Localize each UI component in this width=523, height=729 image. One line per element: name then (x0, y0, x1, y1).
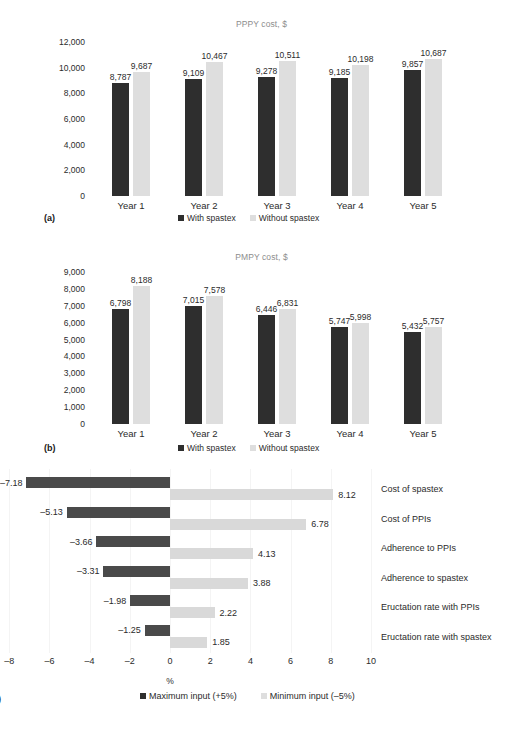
bar-value-label: 10,687 (421, 48, 447, 58)
tornado-bar-maximum-input (130, 595, 170, 606)
y-axis-tick-label: 1,000 (35, 402, 85, 412)
bar-value-label: 6,446 (256, 304, 277, 314)
y-axis-tick-label: 10,000 (35, 63, 85, 73)
chart-legend-c: Maximum input (+5%)Minimum input (–5%) (140, 691, 355, 701)
legend-swatch-icon (178, 445, 184, 451)
x-axis-tick-label: 2 (208, 656, 213, 666)
bar-value-label: 5,432 (402, 321, 423, 331)
legend-item: Without spastex (250, 213, 319, 223)
tornado-category-label: Cost of spastex (381, 484, 443, 494)
tornado-value-label-maximum-input: –3.31 (0, 566, 99, 576)
tornado-bar-maximum-input (67, 507, 170, 518)
x-axis-category-label: Year 5 (409, 428, 436, 439)
y-axis-tick-label: 7,000 (35, 301, 85, 311)
tornado-value-label-minimum-input: 3.88 (253, 578, 271, 588)
x-gridline (371, 469, 372, 653)
legend-label: With spastex (187, 213, 236, 223)
plot-area-c: –7.188.12Cost of spastex–5.136.78Cost of… (0, 465, 523, 665)
tornado-bar-maximum-input (26, 477, 170, 488)
tornado-category-label: Eructation rate with PPIs (381, 602, 480, 612)
tornado-value-label-maximum-input: –1.25 (0, 625, 141, 635)
bar-value-label: 9,109 (183, 68, 204, 78)
tornado-bar-minimum-input (170, 548, 253, 559)
bar-value-label: 10,511 (275, 50, 300, 60)
bar-with-spastex (331, 78, 348, 196)
tornado-category-label: Adherence to spastex (381, 573, 468, 583)
x-axis-tick-label: –6 (44, 656, 54, 666)
x-axis-tick-label: 0 (167, 656, 172, 666)
bar-without-spastex (206, 296, 223, 424)
bar-without-spastex (352, 65, 369, 196)
y-axis-tick-label: 2,000 (35, 165, 85, 175)
tornado-value-label-minimum-input: 2.22 (220, 608, 238, 618)
tornado-bar-minimum-input (170, 637, 207, 648)
bar-without-spastex (425, 59, 442, 196)
bar-without-spastex (133, 286, 150, 424)
bar-value-label: 7,015 (183, 295, 204, 305)
x-axis-tick-label: –8 (4, 656, 14, 666)
tornado-bar-minimum-input (170, 519, 306, 530)
chart-panel-a: PPPY cost, $ (a) 02,0004,0006,0008,00010… (0, 0, 523, 235)
tornado-category-label: Adherence to PPIs (381, 543, 456, 553)
x-axis-tick-label: 4 (248, 656, 253, 666)
bar-with-spastex (112, 83, 129, 196)
bar-value-label: 9,185 (329, 67, 350, 77)
y-axis-tick-label: 2,000 (35, 385, 85, 395)
legend-item: Maximum input (+5%) (140, 691, 237, 701)
bar-with-spastex (404, 70, 421, 196)
y-axis-tick-label: 6,000 (35, 114, 85, 124)
bar-value-label: 6,831 (277, 298, 298, 308)
tornado-bar-minimum-input (170, 489, 333, 500)
bar-value-label: 6,798 (110, 298, 131, 308)
legend-item: With spastex (178, 443, 236, 453)
x-axis-category-label: Year 1 (117, 200, 144, 211)
legend-label: Maximum input (+5%) (149, 691, 237, 701)
tornado-bar-maximum-input (145, 625, 170, 636)
tornado-value-label-minimum-input: 8.12 (338, 490, 356, 500)
y-axis-tick-label: 6,000 (35, 318, 85, 328)
bar-value-label: 7,578 (204, 285, 225, 295)
tornado-value-label-maximum-input: –7.18 (0, 478, 22, 488)
bar-value-label: 9,857 (402, 59, 423, 69)
legend-item: Minimum input (–5%) (261, 691, 355, 701)
legend-swatch-icon (250, 215, 256, 221)
y-axis-tick-label: 4,000 (35, 351, 85, 361)
bar-without-spastex (133, 72, 150, 196)
legend-label: Without spastex (259, 213, 319, 223)
panel-letter-b: (b) (44, 443, 56, 453)
bar-with-spastex (112, 309, 129, 424)
panel-letter-a: (a) (44, 213, 55, 223)
bar-with-spastex (258, 315, 275, 424)
x-axis-category-label: Year 3 (263, 428, 290, 439)
legend-label: Without spastex (259, 443, 319, 453)
x-axis-category-label: Year 4 (336, 428, 363, 439)
tornado-value-label-maximum-input: –1.98 (0, 596, 126, 606)
bar-value-label: 8,787 (110, 72, 131, 82)
chart-panel-c: ) –7.188.12Cost of spastex–5.136.78Cost … (0, 465, 523, 729)
bar-with-spastex (331, 327, 348, 424)
chart-title-b: PMPY cost, $ (0, 252, 523, 262)
bar-with-spastex (185, 79, 202, 196)
legend-swatch-icon (261, 693, 267, 699)
bar-with-spastex (258, 77, 275, 196)
bar-value-label: 9,278 (256, 66, 277, 76)
x-axis-tick-label: 8 (328, 656, 333, 666)
bar-value-label: 10,467 (202, 51, 228, 61)
y-axis-tick-label: 0 (35, 419, 85, 429)
tornado-value-label-minimum-input: 4.13 (258, 549, 276, 559)
legend-item: Without spastex (250, 443, 319, 453)
x-axis-category-label: Year 2 (190, 428, 217, 439)
y-axis-tick-label: 4,000 (35, 140, 85, 150)
bar-value-label: 10,198 (348, 54, 374, 64)
x-axis-tick-label: –2 (125, 656, 135, 666)
x-axis-category-label: Year 1 (117, 428, 144, 439)
panel-letter-c: ) (0, 694, 1, 704)
plot-area-b: 01,0002,0003,0004,0005,0006,0007,0008,00… (95, 272, 495, 424)
x-axis-category-label: Year 5 (409, 200, 436, 211)
tornado-category-label: Cost of PPIs (381, 514, 431, 524)
plot-area-a: 02,0004,0006,0008,00010,00012,0008,7879,… (95, 42, 495, 196)
bar-value-label: 5,998 (350, 312, 371, 322)
bar-with-spastex (185, 306, 202, 424)
legend-swatch-icon (140, 693, 146, 699)
tornado-value-label-maximum-input: –3.66 (0, 537, 92, 547)
